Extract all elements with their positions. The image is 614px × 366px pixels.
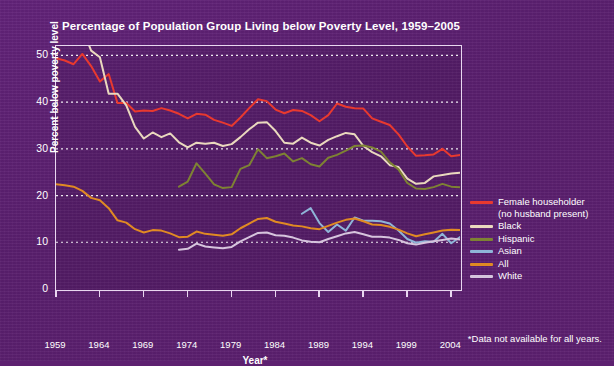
x-tick-mark — [55, 291, 57, 297]
legend-item[interactable]: Black — [470, 220, 588, 232]
y-tick-label: 50 — [28, 48, 48, 60]
y-tick-label: 0 — [28, 282, 48, 294]
chart-footnote: *Data not available for all years. — [468, 333, 602, 344]
x-tick-mark — [143, 291, 145, 297]
legend-swatch-icon — [470, 238, 493, 241]
x-tick-mark — [450, 291, 452, 297]
x-tick-label: 1994 — [352, 339, 373, 350]
x-tick-mark — [231, 291, 233, 297]
x-tick-mark — [275, 291, 277, 297]
x-tick-mark — [406, 291, 408, 297]
legend-item[interactable]: White — [470, 270, 588, 282]
x-tick-mark — [187, 291, 189, 297]
y-tick-label: 20 — [28, 189, 48, 201]
page-title: Percentage of Population Group Living be… — [62, 20, 460, 32]
x-tick-label: 1959 — [44, 339, 65, 350]
y-tick-label: 40 — [28, 95, 48, 107]
y-axis-label: Percent below poverty level — [49, 21, 60, 153]
plot-frame — [55, 45, 462, 291]
chart-legend: Female householder(no husband present)Bl… — [470, 196, 588, 283]
legend-swatch-icon — [470, 275, 493, 278]
x-tick-label: 1989 — [308, 339, 329, 350]
legend-swatch-icon — [470, 201, 493, 204]
x-tick-label: 1999 — [396, 339, 417, 350]
series-line-hispanic — [179, 146, 460, 189]
legend-item-label: White — [498, 270, 522, 282]
x-tick-mark — [318, 291, 320, 297]
legend-item[interactable]: All — [470, 258, 588, 270]
x-tick-label: 1964 — [88, 339, 109, 350]
x-tick-label: 1984 — [264, 339, 285, 350]
x-tick-label: 1969 — [132, 339, 153, 350]
y-tick-label: 30 — [28, 142, 48, 154]
x-tick-mark — [99, 291, 101, 297]
x-tick-label: 2004 — [440, 339, 461, 350]
y-tick-label: 10 — [28, 235, 48, 247]
legend-item-label: Asian — [498, 245, 522, 257]
legend-item[interactable]: Hispanic — [470, 233, 588, 245]
legend-item-label: Female householder(no husband present) — [498, 196, 588, 219]
legend-item[interactable]: Asian — [470, 245, 588, 257]
x-axis-label: Year* — [242, 355, 267, 366]
x-tick-label: 1974 — [176, 339, 197, 350]
chart-lines-svg — [56, 46, 460, 289]
x-tick-label: 1979 — [220, 339, 241, 350]
chart-plot-area: 01020304050 1959196419691974197919841989… — [55, 45, 462, 291]
series-line-all — [56, 184, 460, 237]
series-line-black — [56, 46, 460, 184]
legend-swatch-icon — [470, 225, 493, 228]
legend-swatch-icon — [470, 250, 493, 253]
legend-swatch-icon — [470, 263, 493, 266]
legend-item-label: Black — [498, 220, 521, 232]
legend-item-label-line2: (no husband present) — [498, 208, 588, 219]
legend-item[interactable]: Female householder(no husband present) — [470, 196, 588, 219]
series-line-female — [56, 54, 460, 156]
x-tick-mark — [362, 291, 364, 297]
legend-item-label: Hispanic — [498, 233, 534, 245]
legend-item-label: All — [498, 258, 509, 270]
